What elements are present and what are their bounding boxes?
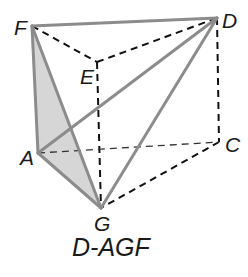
label-e: E [80,65,95,88]
edge-d-g [101,18,217,208]
edge-d-c [217,18,219,142]
label-d: D [222,9,237,32]
edge-c-g [101,142,219,208]
label-f: F [14,16,28,39]
label-g: G [94,212,110,235]
edge-e-g [97,62,101,208]
edge-e-d [97,18,217,62]
label-c: C [225,133,241,156]
edge-f-d [32,18,217,26]
label-a: A [18,146,34,169]
diagram-caption: D-AGF [72,233,152,261]
tetrahedron-diagram: F D E C A G D-AGF [0,0,248,277]
edge-a-d [38,18,217,153]
